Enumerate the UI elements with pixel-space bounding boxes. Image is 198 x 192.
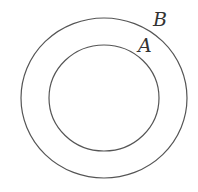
label-a: A — [136, 34, 152, 56]
outer-circle-b — [21, 18, 187, 178]
concentric-circles-diagram: B A — [0, 0, 198, 192]
inner-circle-a — [49, 45, 159, 151]
label-b: B — [152, 8, 167, 30]
